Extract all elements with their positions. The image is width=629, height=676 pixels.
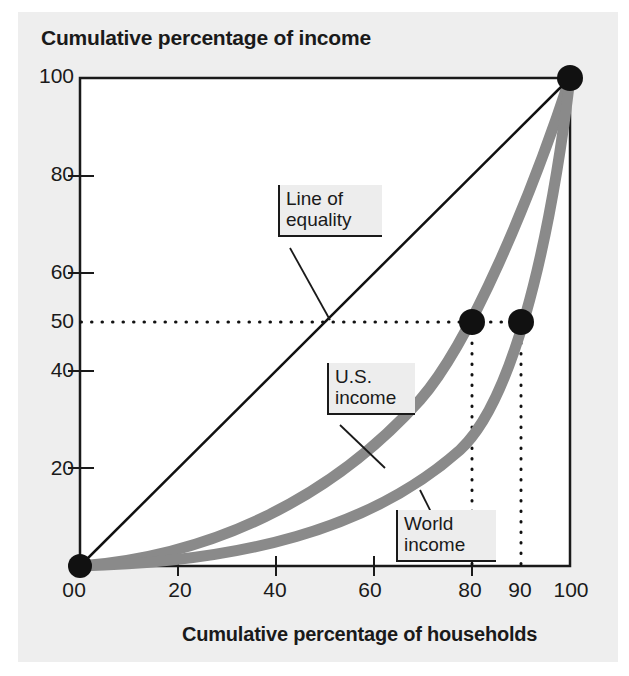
annotation-us-income: U.S. income: [327, 363, 415, 415]
figure-page: Cumulative percentage of income Cumulati…: [0, 0, 629, 676]
marker-us-income-50: [459, 309, 485, 335]
marker-endpoint: [557, 65, 583, 91]
marker-origin: [68, 554, 92, 578]
marker-world-income-50: [508, 309, 534, 335]
annotation-line-of-equality: Line of equality: [278, 185, 382, 237]
annotation-world-income: World income: [396, 510, 496, 562]
lorenz-curve-plot: [0, 0, 629, 676]
